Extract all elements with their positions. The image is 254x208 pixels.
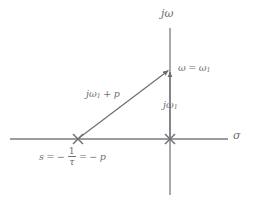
plot-canvas <box>0 0 254 208</box>
s-plane-diagram: jω σ ω=ω1 jω1+p jω1 s = − 1 τ = −p <box>0 0 254 208</box>
omega-subscript: 1 <box>174 103 178 110</box>
omega-subscript: 1 <box>206 66 210 73</box>
pole-vector-label: jω1+p <box>86 89 120 99</box>
fraction-denominator: τ <box>68 157 75 167</box>
minus-sign-second: − <box>89 152 97 162</box>
pole-equation-label: s = − 1 τ = −p <box>39 146 106 167</box>
equals-sign-first: = <box>46 152 54 162</box>
plus-sign: + <box>101 88 114 99</box>
evaluation-point-label: ω=ω1 <box>178 63 210 73</box>
imaginary-axis-label: jω <box>161 8 173 19</box>
p-symbol: p <box>100 152 106 162</box>
omega-symbol: ω <box>166 99 174 110</box>
pole-to-point-vector <box>79 70 168 138</box>
real-axis-label: σ <box>233 130 241 141</box>
omega-symbol: ω <box>178 62 186 73</box>
fraction-one-over-tau: 1 τ <box>68 146 76 167</box>
s-symbol: s <box>39 152 44 162</box>
fraction-numerator: 1 <box>68 146 76 156</box>
p-symbol: p <box>114 88 120 99</box>
minus-sign-first: − <box>57 152 65 162</box>
equals-sign: = <box>186 62 199 73</box>
omega-symbol: ω <box>89 88 97 99</box>
imaginary-component-label: jω1 <box>163 100 178 110</box>
equals-sign-second: = <box>79 152 87 162</box>
